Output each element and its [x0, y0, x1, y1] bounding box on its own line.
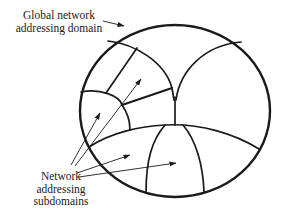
subdomains-label-line-2: addressing [30, 183, 92, 196]
subdomain-divider-radial-2 [122, 88, 172, 105]
arrow-subdomain-bottom-center [79, 163, 176, 177]
subdomains-label: Network addressing subdomains [30, 170, 92, 208]
subdomain-boundary-upper-right [176, 42, 241, 100]
subdomain-boundary-left-small [81, 91, 130, 130]
subdomain-boundary-bottom-inner-right [183, 125, 204, 192]
global-domain-label-line-2: addressing domain [14, 22, 104, 35]
subdomains-label-line-1: Network [30, 170, 92, 183]
global-domain-label: Global network addressing domain [14, 9, 104, 34]
global-domain-label-line-1: Global network [14, 9, 104, 22]
subdomain-divider-radial-1 [106, 48, 137, 93]
arrow-global-domain [103, 21, 124, 26]
subdomain-boundary-bottom-band [89, 125, 259, 149]
subdomains-label-line-3: subdomains [30, 195, 92, 208]
subdomain-boundary-bottom-inner-left [146, 125, 165, 193]
